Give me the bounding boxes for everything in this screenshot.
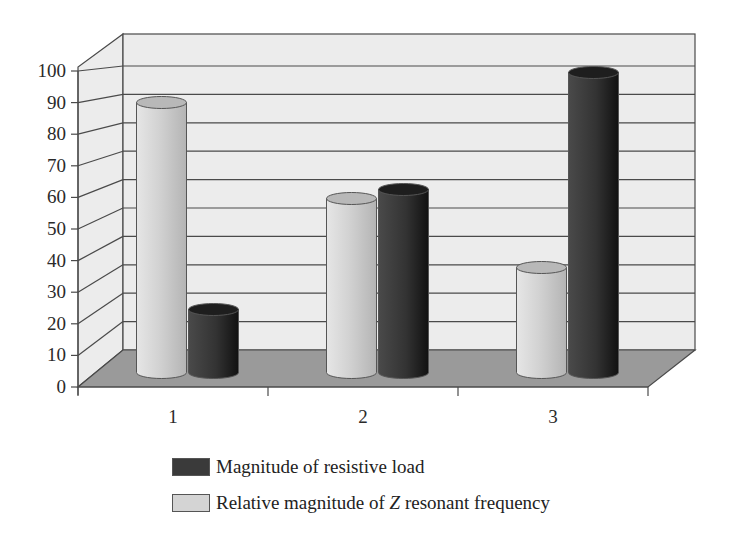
y-tick-label: 50	[47, 218, 66, 239]
y-tick-label: 100	[38, 60, 67, 81]
legend-swatch-dark	[172, 458, 210, 476]
y-tick-label: 90	[47, 92, 66, 113]
bar-resistive-load	[569, 67, 619, 379]
legend-item-resonant-frequency: Relative magnitude of Z resonant frequen…	[172, 485, 550, 521]
bar-resonant-frequency	[517, 262, 567, 379]
y-tick-label: 40	[47, 250, 66, 271]
bar-resonant-frequency	[327, 193, 377, 379]
x-tick-label: 1	[168, 406, 178, 427]
x-tick-label: 3	[548, 406, 558, 427]
y-tick-label: 20	[47, 313, 66, 334]
legend-label: Magnitude of resistive load	[216, 456, 424, 478]
y-tick-label: 0	[57, 376, 67, 397]
bar-resistive-load	[379, 184, 429, 379]
bar-resistive-load	[189, 304, 239, 379]
y-tick-label: 30	[47, 281, 66, 302]
bar-resonant-frequency	[137, 97, 187, 379]
x-tick-label: 2	[358, 406, 368, 427]
y-tick-label: 10	[47, 344, 66, 365]
legend-item-resistive-load: Magnitude of resistive load	[172, 449, 550, 485]
y-tick-label: 70	[47, 155, 66, 176]
legend-label: Relative magnitude of Z resonant frequen…	[216, 492, 550, 514]
legend: Magnitude of resistive load Relative mag…	[172, 449, 550, 521]
legend-swatch-light	[172, 494, 210, 512]
y-tick-label: 80	[47, 123, 66, 144]
y-tick-label: 60	[47, 186, 66, 207]
